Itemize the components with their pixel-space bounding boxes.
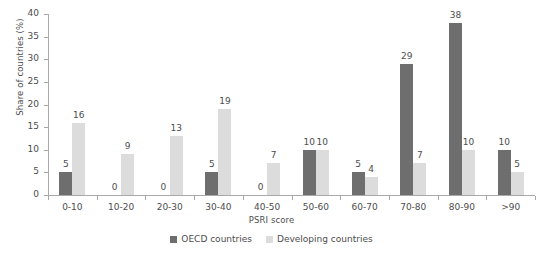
bar-70-80-developing: [413, 163, 426, 195]
bar-value-40-50-developing: 7: [263, 151, 284, 160]
y-tick-label-20: 20: [0, 100, 39, 109]
bar-value-20-30-developing: 13: [166, 124, 187, 133]
x-tick-6: [340, 196, 341, 200]
y-tick-label-40: 40: [0, 9, 39, 18]
x-tick-label-60-70: 60-70: [340, 202, 389, 212]
bar-value-70-80-oecd: 29: [396, 52, 417, 61]
x-tick-0: [48, 196, 49, 200]
bar-value-10-20-developing: 9: [117, 142, 138, 151]
y-tick-label-15: 15: [0, 122, 39, 131]
bar-70-80-oecd: [400, 64, 413, 195]
y-tick-40: [44, 14, 48, 15]
x-tick-10: [535, 196, 536, 200]
bar-0-10-oecd: [59, 172, 72, 195]
bar-40-50-developing: [267, 163, 280, 195]
x-tick-4: [243, 196, 244, 200]
bar-value-30-40-developing: 19: [214, 97, 235, 106]
bar-value-80-90-oecd: 38: [445, 11, 466, 20]
bar-value-80-90-developing: 10: [458, 138, 479, 147]
bar-20-30-developing: [170, 136, 183, 195]
bar-50-60-developing: [316, 150, 329, 195]
x-tick-label-80-90: 80-90: [438, 202, 487, 212]
y-tick-label-35: 35: [0, 32, 39, 41]
chart-legend: OECD countriesDeveloping countries: [0, 234, 543, 244]
bar-80-90-oecd: [449, 23, 462, 195]
bar-60-70-developing: [365, 177, 378, 195]
x-axis-title: PSRI score: [0, 215, 543, 225]
legend-label: OECD countries: [181, 234, 252, 244]
x-tick-label->90: >90: [486, 202, 535, 212]
bar-30-40-developing: [218, 109, 231, 195]
y-tick-35: [44, 37, 48, 38]
y-tick-label-10: 10: [0, 145, 39, 154]
bar-10-20-developing: [121, 154, 134, 195]
x-tick-7: [389, 196, 390, 200]
x-tick-label-10-20: 10-20: [97, 202, 146, 212]
y-axis-line: [48, 14, 49, 196]
x-tick-5: [292, 196, 293, 200]
x-tick-1: [97, 196, 98, 200]
y-tick-label-30: 30: [0, 54, 39, 63]
bar->90-oecd: [498, 150, 511, 195]
bar-value->90-oecd: 10: [494, 138, 515, 147]
clipped-title-strip: [0, 0, 543, 8]
y-tick-25: [44, 82, 48, 83]
y-tick-10: [44, 150, 48, 151]
y-tick-30: [44, 59, 48, 60]
y-tick-15: [44, 127, 48, 128]
bar-value-70-80-developing: 7: [409, 151, 430, 160]
bar-0-10-developing: [72, 123, 85, 195]
y-tick-label-25: 25: [0, 77, 39, 86]
bar-value-50-60-developing: 10: [312, 138, 333, 147]
x-tick-3: [194, 196, 195, 200]
x-tick-8: [438, 196, 439, 200]
y-tick-label-5: 5: [0, 167, 39, 176]
bar-30-40-oecd: [205, 172, 218, 195]
bar->90-developing: [511, 172, 524, 195]
bar-60-70-oecd: [352, 172, 365, 195]
legend-swatch-icon-devel: [266, 236, 273, 243]
x-tick-label-50-60: 50-60: [292, 202, 341, 212]
legend-label: Developing countries: [277, 234, 373, 244]
legend-swatch-icon-oecd: [170, 236, 177, 243]
x-tick-label-20-30: 20-30: [145, 202, 194, 212]
legend-item-devel[interactable]: Developing countries: [266, 234, 373, 244]
bar-50-60-oecd: [303, 150, 316, 195]
y-tick-20: [44, 105, 48, 106]
x-tick-label-40-50: 40-50: [243, 202, 292, 212]
x-tick-label-0-10: 0-10: [48, 202, 97, 212]
y-tick-5: [44, 172, 48, 173]
bar-value->90-developing: 5: [507, 160, 528, 169]
bar-chart: Share of countries (%) 0510152025303540 …: [0, 0, 543, 254]
x-tick-label-70-80: 70-80: [389, 202, 438, 212]
bar-80-90-developing: [462, 150, 475, 195]
legend-item-oecd[interactable]: OECD countries: [170, 234, 252, 244]
x-tick-2: [145, 196, 146, 200]
bar-value-60-70-developing: 4: [361, 165, 382, 174]
bar-value-0-10-developing: 16: [68, 111, 89, 120]
y-tick-label-0: 0: [0, 190, 39, 199]
x-tick-9: [486, 196, 487, 200]
x-tick-label-30-40: 30-40: [194, 202, 243, 212]
